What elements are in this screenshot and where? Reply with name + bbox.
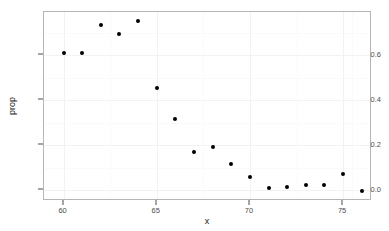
y-axis-tick-mark (38, 54, 43, 55)
data-point (155, 86, 159, 90)
data-point (267, 186, 271, 190)
gridline-major-vertical (157, 12, 158, 199)
y-axis-tick-label: 0.6 (371, 50, 381, 59)
y-axis-tick-mark (38, 144, 43, 145)
data-point (248, 175, 252, 179)
data-point (117, 32, 121, 36)
gridline-minor-vertical (297, 12, 298, 199)
x-axis-title: x (205, 216, 210, 226)
x-axis-tick-label: 65 (152, 206, 160, 215)
data-point (211, 145, 215, 149)
data-point (136, 19, 140, 23)
gridline-minor-vertical (110, 12, 111, 199)
gridline-minor-horizontal (44, 78, 370, 79)
gridline-major-horizontal (44, 100, 370, 101)
data-point (173, 117, 177, 121)
gridline-minor-horizontal (44, 123, 370, 124)
x-axis-tick-mark (342, 200, 343, 205)
y-axis-tick-mark (38, 189, 43, 190)
data-point (62, 51, 66, 55)
data-point (192, 150, 196, 154)
x-axis-tick-label: 75 (338, 206, 346, 215)
gridline-minor-horizontal (44, 168, 370, 169)
x-axis-tick-mark (62, 200, 63, 205)
y-axis-tick-label: 0.4 (371, 95, 381, 104)
gridline-major-vertical (343, 12, 344, 199)
gridline-major-vertical (64, 12, 65, 199)
gridline-minor-vertical (352, 12, 353, 199)
y-axis-tick-label: 0.2 (371, 140, 381, 149)
x-axis-tick-label: 60 (58, 206, 66, 215)
data-point (229, 162, 233, 166)
data-point (285, 185, 289, 189)
x-axis-tick-label: 70 (245, 206, 253, 215)
y-axis-tick-label: 0.0 (371, 185, 381, 194)
y-axis-title: prop (7, 97, 17, 115)
data-point (304, 183, 308, 187)
scatter-plot: 0.00.20.40.6 60657075 prop x (0, 0, 389, 231)
y-axis-tick-mark (38, 99, 43, 100)
gridline-minor-vertical (203, 12, 204, 199)
x-axis-tick-mark (248, 200, 249, 205)
plot-panel (43, 11, 371, 200)
gridline-minor-horizontal (44, 33, 370, 34)
gridline-major-horizontal (44, 145, 370, 146)
gridline-major-horizontal (44, 190, 370, 191)
data-point (360, 189, 364, 193)
data-point (322, 183, 326, 187)
data-point (99, 23, 103, 27)
x-axis-tick-mark (155, 200, 156, 205)
data-point (341, 172, 345, 176)
gridline-major-horizontal (44, 55, 370, 56)
gridline-major-vertical (250, 12, 251, 199)
